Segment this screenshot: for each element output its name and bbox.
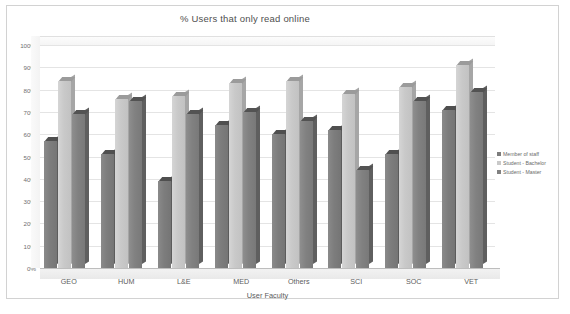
bar-group [40, 45, 97, 268]
bar[interactable] [129, 101, 142, 268]
x-axis-category-label: GEO [40, 277, 98, 289]
bar-face [328, 130, 341, 268]
bar-face [385, 154, 398, 268]
bar-face [243, 112, 256, 268]
bar-group [324, 45, 381, 268]
bar-side [313, 114, 317, 264]
bar-face [101, 154, 114, 268]
bar[interactable] [442, 110, 455, 268]
bar[interactable] [328, 130, 341, 268]
plot-area [40, 45, 495, 268]
chart-page: % Users that only read online 100%90%80%… [0, 0, 570, 314]
bar-side [369, 163, 373, 264]
bar-group [381, 45, 438, 268]
legend-swatch-icon [497, 152, 501, 156]
bar-side [426, 94, 430, 264]
bar-face [44, 141, 57, 268]
legend-item-label: Student - Bachelor [503, 160, 546, 166]
x-axis-category-label: L&E [155, 277, 213, 289]
bar-face [342, 94, 355, 268]
bar-face [272, 134, 285, 268]
bar-face [456, 65, 469, 268]
legend-swatch-icon [497, 161, 501, 165]
bar[interactable] [385, 154, 398, 268]
bar-face [72, 114, 85, 268]
bar-groups [40, 45, 495, 268]
bar[interactable] [158, 181, 171, 268]
bar-face [129, 101, 142, 268]
bar[interactable] [229, 83, 242, 268]
bar[interactable] [58, 81, 71, 268]
bar[interactable] [115, 99, 128, 268]
legend-item[interactable]: Student - Bachelor [497, 160, 565, 166]
bar-side [483, 85, 487, 264]
legend-item[interactable]: Student - Master [497, 169, 565, 175]
bar[interactable] [286, 81, 299, 268]
bar-face [58, 81, 71, 268]
bar-group [268, 45, 325, 268]
x-axis-category-label: SOC [385, 277, 443, 289]
x-axis-categories: GEOHUML&EMEDOthersSCISOCVET [40, 277, 500, 289]
plot-left-wall [31, 36, 40, 268]
bar[interactable] [44, 141, 57, 268]
page-bottom-edge [6, 302, 206, 308]
bar[interactable] [470, 92, 483, 268]
bar-face [356, 170, 369, 268]
legend-swatch-icon [497, 170, 501, 174]
bar-face [115, 99, 128, 268]
bar[interactable] [456, 65, 469, 268]
chart-legend: Member of staffStudent - BachelorStudent… [497, 151, 565, 179]
bar-face [186, 114, 199, 268]
legend-item-label: Student - Master [503, 169, 541, 175]
x-axis-category-label: Others [270, 277, 328, 289]
chart-title: % Users that only read online [0, 13, 490, 24]
bar[interactable] [272, 134, 285, 268]
bar-face [300, 121, 313, 268]
bar-face [470, 92, 483, 268]
bar-group [211, 45, 268, 268]
bar[interactable] [72, 114, 85, 268]
bar[interactable] [243, 112, 256, 268]
bar-group [97, 45, 154, 268]
bar-face [399, 87, 412, 268]
x-axis-title: User Faculty [40, 291, 495, 300]
bar[interactable] [342, 94, 355, 268]
bar[interactable] [399, 87, 412, 268]
bar[interactable] [413, 101, 426, 268]
legend-item-label: Member of staff [503, 151, 539, 157]
bar-face [172, 96, 185, 268]
bar-face [286, 81, 299, 268]
x-axis-category-label: SCI [328, 277, 386, 289]
x-axis-category-label: HUM [98, 277, 156, 289]
bar[interactable] [186, 114, 199, 268]
bar-face [442, 110, 455, 268]
bar-group [438, 45, 495, 268]
bar-side [199, 108, 203, 264]
bar[interactable] [101, 154, 114, 268]
bar-side [142, 94, 146, 264]
bar[interactable] [215, 125, 228, 268]
bar-face [158, 181, 171, 268]
bar-group [154, 45, 211, 268]
legend-item[interactable]: Member of staff [497, 151, 565, 157]
x-axis-category-label: MED [213, 277, 271, 289]
bar-face [229, 83, 242, 268]
x-axis-category-label: VET [443, 277, 501, 289]
bar[interactable] [172, 96, 185, 268]
bar-side [256, 105, 260, 264]
bar-side [85, 108, 89, 264]
bar-face [215, 125, 228, 268]
bar[interactable] [300, 121, 313, 268]
bar-face [413, 101, 426, 268]
bar[interactable] [356, 170, 369, 268]
